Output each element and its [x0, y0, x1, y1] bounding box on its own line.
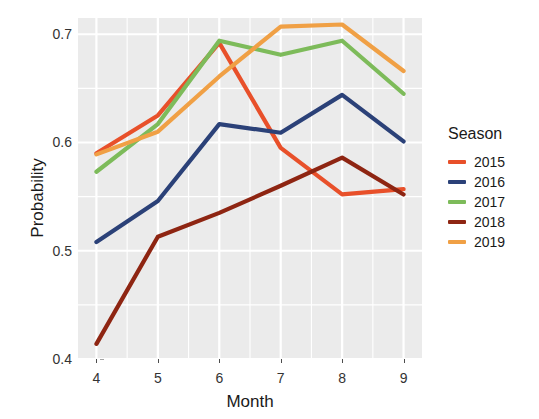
- legend-item-2016[interactable]: 2016: [448, 172, 538, 192]
- x-tick-mark: [219, 359, 220, 363]
- x-tick-label: 6: [199, 370, 239, 386]
- legend-item-2015[interactable]: 2015: [448, 152, 538, 172]
- legend-item-label: 2015: [474, 154, 505, 170]
- legend: Season 20152016201720182019: [448, 125, 538, 252]
- legend-item-label: 2018: [474, 214, 505, 230]
- y-tick-label: 0.4: [32, 351, 72, 367]
- legend-key-swatch: [448, 200, 466, 204]
- x-tick-mark: [281, 359, 282, 363]
- legend-key-swatch: [448, 220, 466, 224]
- legend-item-2019[interactable]: 2019: [448, 232, 538, 252]
- legend-title: Season: [448, 125, 538, 143]
- legend-item-2018[interactable]: 2018: [448, 212, 538, 232]
- x-tick-mark: [404, 359, 405, 363]
- plot-panel: [78, 18, 422, 359]
- legend-item-label: 2016: [474, 174, 505, 190]
- x-tick-mark: [96, 359, 97, 363]
- y-tick-label: 0.5: [32, 243, 72, 259]
- legend-key-swatch: [448, 160, 466, 164]
- plot-area: [78, 18, 422, 359]
- x-tick-label: 9: [384, 370, 424, 386]
- legend-item-2017[interactable]: 2017: [448, 192, 538, 212]
- legend-items: 20152016201720182019: [448, 152, 538, 252]
- y-tick-label: 0.6: [32, 134, 72, 150]
- x-tick-label: 7: [261, 370, 301, 386]
- legend-key-swatch: [448, 240, 466, 244]
- x-tick-label: 5: [138, 370, 178, 386]
- x-tick-mark: [342, 359, 343, 363]
- x-tick-label: 8: [322, 370, 362, 386]
- x-axis-title: Month: [78, 392, 422, 412]
- legend-item-label: 2017: [474, 194, 505, 210]
- x-tick-label: 4: [76, 370, 116, 386]
- chart-figure: Probability 0.40.50.60.7 456789 Month Se…: [0, 0, 539, 419]
- legend-item-label: 2019: [474, 234, 505, 250]
- legend-key-swatch: [448, 180, 466, 184]
- x-tick-mark: [158, 359, 159, 363]
- y-tick-label: 0.7: [32, 26, 72, 42]
- y-axis-tick-labels: 0.40.50.60.7: [28, 0, 72, 419]
